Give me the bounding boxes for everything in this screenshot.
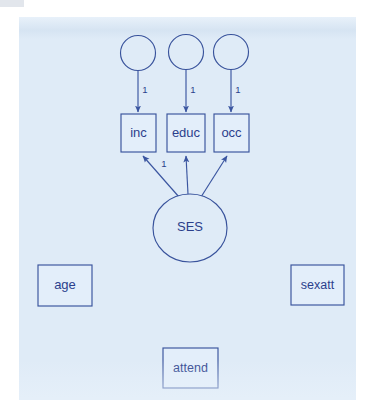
observed-label-age: age [54, 277, 76, 292]
observed-label-sexatt: sexatt [301, 278, 335, 292]
latent-label-ses: SES [177, 219, 203, 234]
latent-group: SES [153, 194, 227, 262]
path-label-e2-to-educ: 1 [190, 84, 195, 95]
standalone-group: age sexatt attend [38, 265, 344, 388]
path-ses-to-educ [186, 156, 188, 194]
indicator-label-inc: inc [130, 125, 147, 140]
observed-label-attend: attend [173, 361, 208, 375]
diagram-stage: 1 1 1 1 [0, 0, 373, 413]
sem-path-diagram: 1 1 1 1 [19, 17, 356, 400]
indicator-label-occ: occ [221, 125, 242, 140]
residual-circle-e1[interactable] [121, 36, 156, 71]
path-label-e3-to-occ: 1 [235, 84, 240, 95]
residual-circle-e3[interactable] [214, 35, 249, 70]
diagram-canvas: 1 1 1 1 [19, 17, 356, 400]
indicator-group: inc educ occ [121, 114, 249, 152]
path-label-ses-to-inc: 1 [161, 158, 166, 169]
residual-group [121, 35, 249, 71]
scan-artifact-strip [0, 0, 24, 7]
path-ses-to-occ [201, 156, 227, 197]
path-label-e1-to-inc: 1 [142, 84, 147, 95]
residual-circle-e2[interactable] [169, 35, 204, 70]
indicator-label-educ: educ [172, 125, 201, 140]
